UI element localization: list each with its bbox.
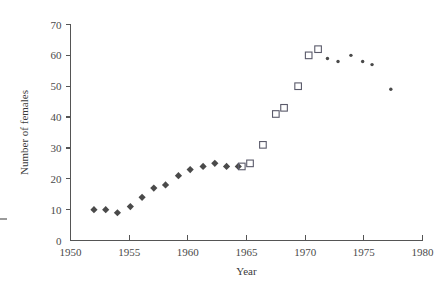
y-axis-title: Number of females [18,90,30,175]
x-tick-label: 1950 [60,246,83,258]
scatter-plot: 010203040506070 195019551960196519701975… [0,0,444,286]
data-point [315,46,322,53]
x-tick-label: 1970 [294,246,317,258]
series-open-squares [239,46,322,170]
series-small-dots [326,54,393,91]
data-point [295,83,302,90]
y-tick-label: 30 [51,142,63,154]
x-tick-label: 1965 [236,246,259,258]
data-point [305,52,312,59]
y-tick-label: 40 [51,111,63,123]
data-point [199,163,206,170]
data-point [102,206,109,213]
data-point [127,203,134,210]
data-point [247,160,254,167]
x-tick-label: 1960 [177,246,200,258]
data-point [175,172,182,179]
data-point [114,209,121,216]
data-point [273,111,280,118]
data-point [223,163,230,170]
axis-lines [71,24,423,241]
data-point [138,194,145,201]
x-axis-title: Year [236,265,257,277]
y-tick-label: 50 [51,80,63,92]
data-point [389,88,392,91]
chart-figure: 010203040506070 195019551960196519701975… [0,0,444,286]
axis-tick-marks [66,25,423,241]
y-axis-tick-labels: 010203040506070 [51,19,63,247]
y-tick-label: 20 [51,173,63,185]
data-point [260,142,267,149]
data-point [336,60,339,63]
data-point [211,160,218,167]
x-tick-label: 1955 [118,246,141,258]
y-tick-label: 60 [51,49,63,61]
data-point [349,54,352,57]
data-point [326,57,329,60]
series-filled-diamonds [90,160,242,217]
data-point [281,105,288,112]
data-point [150,184,157,191]
data-point [370,63,373,66]
x-axis-tick-labels: 1950195519601965197019751980 [60,246,435,258]
data-points [90,46,392,216]
y-tick-label: 70 [51,19,63,31]
x-tick-label: 1980 [412,246,435,258]
y-tick-label: 10 [51,204,63,216]
data-point [90,206,97,213]
x-tick-label: 1975 [353,246,376,258]
data-point [187,166,194,173]
data-point [162,181,169,188]
data-point [361,60,364,63]
